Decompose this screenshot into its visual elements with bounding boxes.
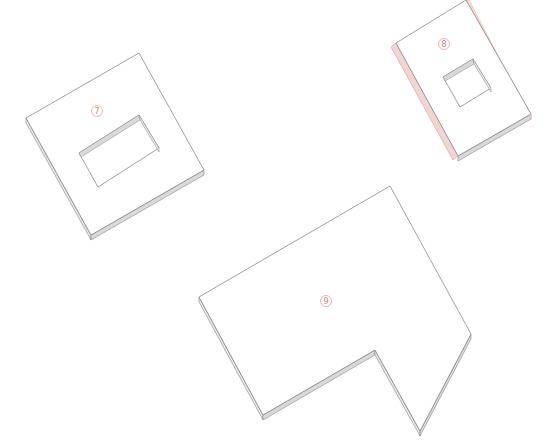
panel-7: 7 (26, 53, 204, 240)
panel-8: 8 (391, 0, 531, 161)
diagram-canvas: 7 8 9 (0, 0, 552, 447)
panel-9: 9 (199, 186, 471, 436)
panel-9-top-face (199, 186, 471, 431)
panel-9-number: 9 (323, 297, 328, 306)
panel-8-number: 8 (441, 40, 446, 49)
panel-7-number: 7 (94, 107, 99, 116)
